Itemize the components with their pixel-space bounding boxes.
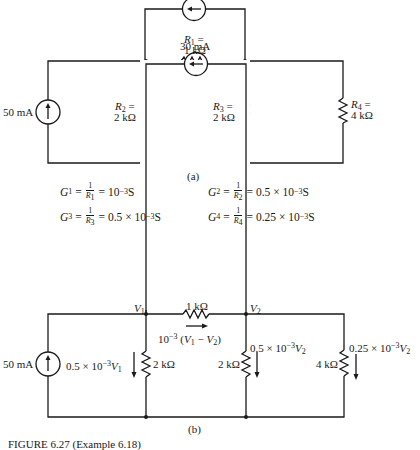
resistor-4k-label-b: 4 kΩ xyxy=(316,358,338,370)
source-50ma-label-a: 50 mA xyxy=(3,106,33,118)
equation-g3: G3 = 1R3 = 0.5 × 10−3 S xyxy=(60,206,161,227)
resistor-2k-mid-b xyxy=(242,351,250,377)
resistor-4k-b xyxy=(340,350,348,376)
part-b-label: (b) xyxy=(188,423,201,435)
current-label-v1: 0.5 × 10−3V1 xyxy=(66,358,122,376)
current-label-v2-2k: 0.5 × 10−3V2 xyxy=(250,340,306,358)
part-a-label: (a) xyxy=(187,170,199,182)
current-label-v2-4k: 0.25 × 10−3V2 xyxy=(349,340,410,358)
resistor-2k-left-label-b: 2 kΩ xyxy=(153,358,175,370)
source-30ma-label-b: 30 mA xyxy=(180,40,210,52)
equation-g4: G4 = 1R4 = 0.25 × 10−3 S xyxy=(208,206,315,227)
figure-caption: FIGURE 6.27 (Example 6.18) xyxy=(8,438,141,450)
r3-value-a: 2 kΩ xyxy=(213,111,235,123)
node-v1-label: V1 xyxy=(134,302,145,318)
r2-value-a: 2 kΩ xyxy=(114,111,136,123)
equation-g1: G1 = 1R1 = 10−3 S xyxy=(60,181,134,202)
node-v2-label: V2 xyxy=(250,302,261,318)
current-label-1k: 10−3 (V1 − V2) xyxy=(158,331,221,349)
source-50ma-label-b: 50 mA xyxy=(3,358,33,370)
r4-value-a: 4 kΩ xyxy=(351,109,373,121)
equation-g2: G2 = 1R2 = 0.5 × 10−3 S xyxy=(208,181,309,202)
resistor-2k-left-b xyxy=(142,351,150,377)
resistor-1k-label-b: 1 kΩ xyxy=(186,300,208,312)
resistor-2k-mid-label-b: 2 kΩ xyxy=(218,358,240,370)
